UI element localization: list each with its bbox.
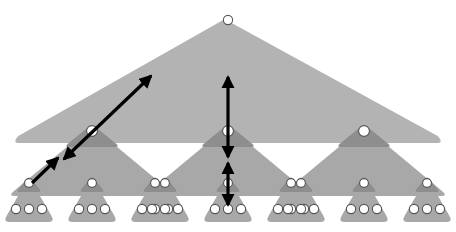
leaf-node-19 <box>296 204 305 213</box>
leaf-node-12 <box>210 204 219 213</box>
root-node-group <box>223 15 232 24</box>
leaf-node-14 <box>236 204 245 213</box>
level2-node-7 <box>360 179 369 188</box>
leaf-node-23 <box>372 204 381 213</box>
leaf-node-6 <box>137 204 146 213</box>
leaf-node-24 <box>409 204 418 213</box>
leaf-node-18 <box>283 204 292 213</box>
level1-node-2 <box>359 126 370 137</box>
root-node <box>223 15 232 24</box>
level2-node-3 <box>161 179 170 188</box>
diagram-canvas <box>0 0 456 232</box>
leaf-node-2 <box>37 204 46 213</box>
leaf-node-21 <box>346 204 355 213</box>
leaf-node-11 <box>173 204 182 213</box>
level2-node-6 <box>297 179 306 188</box>
leaf-node-4 <box>87 204 96 213</box>
level2-node-5 <box>287 179 296 188</box>
leaf-node-10 <box>160 204 169 213</box>
leaf-node-22 <box>359 204 368 213</box>
leaf-node-13 <box>223 204 232 213</box>
leaf-node-20 <box>309 204 318 213</box>
level2-node-8 <box>423 179 432 188</box>
leaf-node-5 <box>100 204 109 213</box>
level2-node-2 <box>151 179 160 188</box>
leaf-node-1 <box>24 204 33 213</box>
hierarchical-tree-svg <box>0 0 456 232</box>
level2-node-1 <box>88 179 97 188</box>
leaf-node-25 <box>422 204 431 213</box>
leaf-nodes-group <box>11 204 444 213</box>
leaf-node-0 <box>11 204 20 213</box>
leaf-node-15 <box>273 204 282 213</box>
leaf-node-9 <box>147 204 156 213</box>
leaf-node-3 <box>74 204 83 213</box>
leaf-node-26 <box>435 204 444 213</box>
